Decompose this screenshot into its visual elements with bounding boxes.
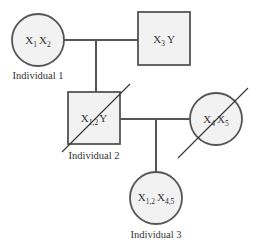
individual-2-node: X1,2Y Individual 2 — [62, 84, 130, 161]
individual-1-node: X1X2 Individual 1 — [12, 14, 64, 81]
father-node: X3Y — [138, 12, 190, 65]
label-individual-2: Individual 2 — [68, 150, 119, 161]
individual-3-node: X1,2X4,5 Individual 3 — [130, 172, 182, 240]
label-individual-3: Individual 3 — [130, 229, 181, 240]
female-circle-icon — [12, 14, 64, 66]
label-individual-1: Individual 1 — [12, 70, 63, 81]
mate-node: X4X5 — [178, 88, 248, 158]
female-circle-icon — [190, 93, 242, 145]
pedigree-diagram: X1X2 Individual 1 X3Y X1,2Y Individual 2… — [0, 0, 256, 249]
